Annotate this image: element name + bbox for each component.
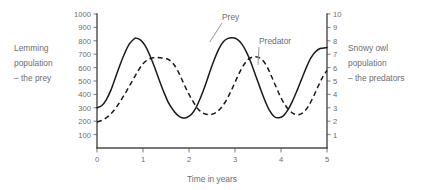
left-tick-label: 600 [78,64,91,73]
left-tick-label: 800 [78,37,91,46]
left-tick-label: 100 [78,131,91,140]
right-tick-label: 10 [333,10,341,19]
annotation-label-prey: Prey [222,12,240,22]
left-tick-label: 300 [78,104,91,113]
x-tick-label: 1 [141,155,145,164]
right-tick-label: 3 [333,104,337,113]
x-tick-label: 0 [95,155,99,164]
left-tick-label: 400 [78,90,91,99]
left-axis-ticks: 1002003004005006007008009001000 [74,10,97,140]
left-tick-label: 500 [78,77,91,86]
x-tick-label: 5 [325,155,329,164]
predator-prey-line-chart: 1002003004005006007008009001000 12345678… [0,0,427,190]
x-axis-ticks: 012345 [95,148,329,164]
right-tick-label: 8 [333,37,337,46]
x-tick-label: 2 [187,155,191,164]
right-axis-ticks: 12345678910 [327,10,341,140]
left-axis-caption-line2: population [14,58,53,68]
left-tick-label: 700 [78,50,91,59]
x-tick-label: 3 [233,155,237,164]
right-axis-caption-line1: Snowy owl [348,43,388,53]
x-axis-title: Time in years [187,174,237,184]
right-tick-label: 4 [333,90,337,99]
chart-figure: 1002003004005006007008009001000 12345678… [0,0,427,190]
annotation-label-predator: Predator [259,36,291,46]
right-tick-label: 6 [333,64,337,73]
left-tick-label: 900 [78,23,91,32]
prey-curve [97,38,327,118]
left-axis-caption-line3: – the prey [14,73,52,83]
x-tick-label: 4 [279,155,283,164]
right-tick-label: 7 [333,50,337,59]
right-tick-label: 2 [333,117,337,126]
right-tick-label: 1 [333,131,337,140]
annotation-leader-line [210,23,222,42]
annotation-leader-line [258,47,259,65]
right-tick-label: 5 [333,77,337,86]
left-tick-label: 200 [78,117,91,126]
right-axis-caption-line2: population [348,58,387,68]
left-tick-label: 1000 [74,10,91,19]
right-tick-label: 9 [333,23,337,32]
right-axis-caption-line3: – the predators [348,73,404,83]
left-axis-caption-line1: Lemming [14,43,49,53]
